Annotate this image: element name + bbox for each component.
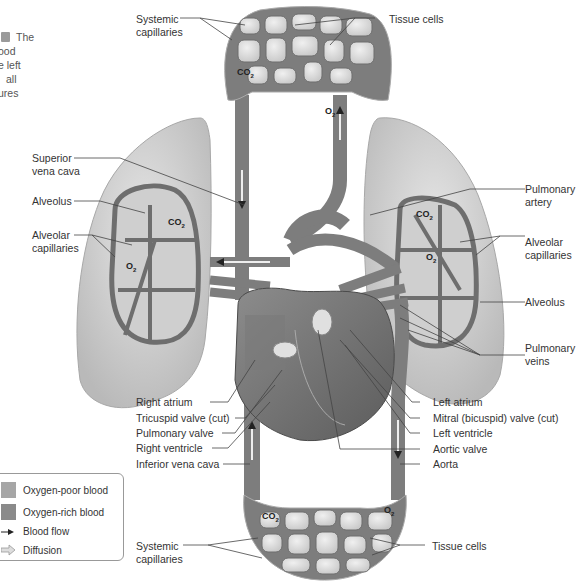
label-aorta: Aorta xyxy=(433,458,458,471)
o2-label-right-lung: O2 xyxy=(426,252,436,264)
swatch-oxygen-rich-icon xyxy=(1,504,16,520)
label-alveolus-left: Alveolus xyxy=(32,195,72,208)
label-pulmonary-valve: Pulmonary valve xyxy=(136,427,214,440)
legend: Oxygen-poor blood Oxygen-rich blood Bloo… xyxy=(0,473,124,561)
co2-label-top: CO2 xyxy=(237,67,254,79)
label-alveolar-capillaries-right: Alveolarcapillaries xyxy=(525,236,572,262)
legend-item-diffusion: Diffusion xyxy=(1,544,62,556)
co2-label-bottom: CO2 xyxy=(262,511,279,523)
figure-badge-icon xyxy=(1,32,10,42)
o2-label-left-lung: O2 xyxy=(126,261,136,273)
arrow-icon xyxy=(1,527,16,537)
systemic-capillaries-top xyxy=(225,7,392,101)
legend-item-blood-flow: Blood flow xyxy=(1,526,69,537)
label-left-atrium: Left atrium xyxy=(433,396,483,409)
swatch-oxygen-poor-icon xyxy=(1,482,16,498)
label-right-ventricle: Right ventricle xyxy=(136,442,203,455)
legend-item-oxygen-poor: Oxygen-poor blood xyxy=(1,482,108,498)
label-superior-vena-cava: Superiorvena cava xyxy=(32,152,80,178)
label-right-atrium: Right atrium xyxy=(136,396,193,409)
label-pulmonary-veins: Pulmonaryveins xyxy=(525,342,575,368)
label-systemic-capillaries-top: Systemiccapillaries xyxy=(136,13,183,39)
co2-label-right-lung: CO2 xyxy=(416,209,433,221)
label-pulmonary-artery: Pulmonaryartery xyxy=(525,183,575,209)
label-tricuspid-valve: Tricuspid valve (cut) xyxy=(136,412,230,425)
label-inferior-vena-cava: Inferior vena cava xyxy=(136,458,219,471)
label-mitral-valve: Mitral (bicuspid) valve (cut) xyxy=(433,412,558,425)
left-lung xyxy=(77,118,211,408)
label-alveolus-right: Alveolus xyxy=(525,296,565,309)
o2-label-bottom: O2 xyxy=(384,505,394,517)
label-alveolar-capillaries-left: Alveolarcapillaries xyxy=(32,229,79,255)
figure-caption: The ood e left all ures xyxy=(0,30,34,100)
o2-label-top: O2 xyxy=(325,106,335,118)
label-left-ventricle: Left ventricle xyxy=(433,427,493,440)
co2-label-left-lung: CO2 xyxy=(168,217,185,229)
label-tissue-cells-top: Tissue cells xyxy=(389,13,443,26)
legend-item-oxygen-rich: Oxygen-rich blood xyxy=(1,504,104,520)
label-systemic-capillaries-bottom: Systemiccapillaries xyxy=(136,540,183,566)
hollow-arrow-icon xyxy=(1,544,16,556)
label-tissue-cells-bottom: Tissue cells xyxy=(432,540,486,553)
systemic-capillaries-bottom xyxy=(244,495,407,580)
label-aortic-valve: Aortic valve xyxy=(433,443,487,456)
